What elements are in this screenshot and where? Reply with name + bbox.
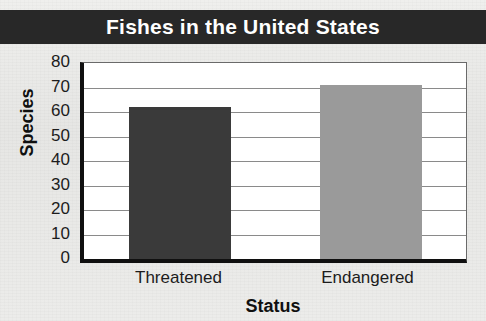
chart-title-banner: Fishes in the United States — [0, 10, 486, 44]
y-axis-tick-80: 80 — [51, 52, 70, 72]
y-axis-tick-40: 40 — [51, 150, 70, 170]
x-axis-title: Status — [84, 296, 462, 317]
bar-series — [84, 63, 466, 259]
bar-threatened — [129, 107, 231, 259]
y-axis-tick-10: 10 — [51, 224, 70, 244]
bar-endangered — [320, 85, 422, 259]
y-axis-tick-50: 50 — [51, 126, 70, 146]
chart-title: Fishes in the United States — [106, 15, 380, 39]
y-axis-tick-0: 0 — [61, 248, 70, 268]
x-axis-tick-labels: ThreatenedEndangered — [84, 268, 462, 288]
plot-area — [80, 62, 467, 263]
y-axis-tick-70: 70 — [51, 77, 70, 97]
x-axis-tick-endangered: Endangered — [273, 268, 462, 288]
y-axis-tick-labels: 80706050403020100 — [0, 62, 76, 258]
y-axis-tick-60: 60 — [51, 101, 70, 121]
y-axis-tick-20: 20 — [51, 199, 70, 219]
x-axis-tick-threatened: Threatened — [84, 268, 273, 288]
y-axis-tick-30: 30 — [51, 175, 70, 195]
